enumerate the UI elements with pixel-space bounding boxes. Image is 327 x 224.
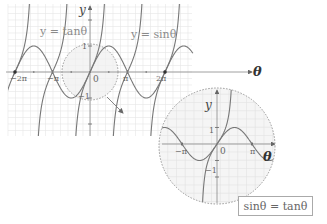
zoom-y-axis-label: y [205, 99, 212, 111]
zoom-tick-neg-1: −1 [205, 167, 217, 175]
equation-box: sinθ = tanθ [238, 196, 313, 216]
zoom-origin-label: 0 [220, 147, 226, 156]
main-tick-neg-1: −1 [78, 93, 90, 101]
main-origin-label: 0 [93, 75, 99, 84]
main-tick-1: 1 [82, 43, 87, 51]
zoom-tick-pi: π [250, 148, 255, 156]
zoom-theta-axis-label: θ [263, 150, 272, 163]
equation-text: sinθ = tanθ [244, 200, 308, 213]
main-tick-pi: π [123, 75, 128, 83]
main-tick-neg-pi: −π [47, 75, 59, 83]
tan-curve-label: y = tanθ [40, 26, 87, 37]
sin-curve-label: y = sinθ [131, 29, 176, 40]
zoom-tick-1: 1 [209, 127, 214, 135]
diagram-canvas: y = tanθ y = sinθ y θ 1 −1 0 −2π −π π 2π… [0, 0, 327, 224]
main-theta-axis-label: θ [253, 65, 262, 78]
main-y-axis-label: y [79, 4, 86, 16]
main-tick-neg-2pi: −2π [10, 75, 27, 83]
main-tick-2pi: 2π [156, 75, 166, 83]
zoom-tick-neg-pi: −π [175, 148, 187, 156]
